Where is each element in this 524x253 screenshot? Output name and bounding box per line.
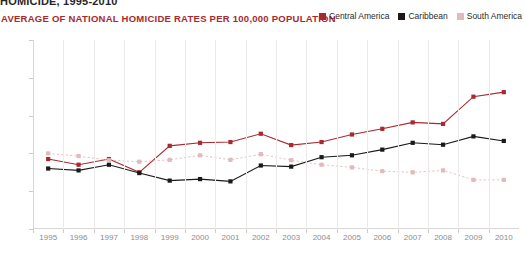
legend-item-caribbean[interactable]: Caribbean (398, 12, 447, 21)
legend-item-central-america[interactable]: Central America (319, 12, 389, 21)
gridline-vertical (94, 40, 95, 229)
data-point-marker[interactable] (411, 170, 415, 174)
square-swatch-icon (398, 13, 405, 20)
x-axis-tick-label: 1995 (31, 233, 65, 242)
gridline-vertical (428, 40, 429, 229)
x-axis-tick-label: 1999 (153, 233, 187, 242)
data-point-marker[interactable] (380, 169, 384, 173)
data-point-marker[interactable] (46, 151, 50, 155)
data-point-marker[interactable] (380, 148, 384, 152)
x-axis-tick-label: 2006 (365, 233, 399, 242)
square-swatch-icon (457, 13, 464, 20)
data-point-marker[interactable] (411, 120, 415, 124)
data-point-marker[interactable] (259, 132, 263, 136)
legend-item-south-america[interactable]: South America (457, 12, 522, 21)
data-point-marker[interactable] (107, 158, 111, 162)
data-point-marker[interactable] (319, 155, 323, 159)
gridline-vertical (306, 40, 307, 229)
plot-area: 0102030405019951996199719981999200020012… (33, 40, 519, 229)
y-axis-tick (29, 78, 33, 79)
data-point-marker[interactable] (107, 163, 111, 167)
supertitle: HOMICIDE, 1995-2010 (0, 0, 118, 7)
data-point-marker[interactable] (380, 127, 384, 131)
data-point-marker[interactable] (411, 141, 415, 145)
data-point-marker[interactable] (289, 158, 293, 162)
data-point-marker[interactable] (319, 140, 323, 144)
square-swatch-icon (319, 13, 326, 20)
x-axis-tick-label: 1996 (62, 233, 96, 242)
data-point-marker[interactable] (441, 168, 445, 172)
data-point-marker[interactable] (76, 163, 80, 167)
gridline-vertical (398, 40, 399, 229)
data-point-marker[interactable] (228, 158, 232, 162)
y-axis-tick (29, 153, 33, 154)
x-axis-tick-label: 2010 (487, 233, 521, 242)
chart-legend: Central AmericaCaribbeanSouth America (319, 12, 522, 21)
gridline-vertical (276, 40, 277, 229)
chart-container: HOMICIDE, 1995-2010 AVERAGE OF NATIONAL … (0, 0, 524, 253)
chart-title: AVERAGE OF NATIONAL HOMICIDE RATES PER 1… (1, 13, 336, 24)
gridline-vertical (246, 40, 247, 229)
data-point-marker[interactable] (76, 168, 80, 172)
data-point-marker[interactable] (137, 160, 141, 164)
gridline-vertical (124, 40, 125, 229)
legend-label: Central America (329, 12, 389, 21)
data-point-marker[interactable] (350, 132, 354, 136)
data-point-marker[interactable] (289, 165, 293, 169)
data-point-marker[interactable] (259, 152, 263, 156)
data-point-marker[interactable] (228, 179, 232, 183)
gridline-vertical (185, 40, 186, 229)
data-point-marker[interactable] (319, 163, 323, 167)
data-point-marker[interactable] (198, 177, 202, 181)
data-point-marker[interactable] (46, 166, 50, 170)
data-point-marker[interactable] (441, 122, 445, 126)
data-point-marker[interactable] (228, 140, 232, 144)
data-point-marker[interactable] (350, 153, 354, 157)
gridline-vertical (155, 40, 156, 229)
data-point-marker[interactable] (198, 141, 202, 145)
data-point-marker[interactable] (168, 158, 172, 162)
data-point-marker[interactable] (471, 178, 475, 182)
x-axis-tick-label: 2001 (213, 233, 247, 242)
gridline-vertical (63, 40, 64, 229)
data-point-marker[interactable] (168, 144, 172, 148)
data-point-marker[interactable] (137, 171, 141, 175)
data-point-marker[interactable] (441, 143, 445, 147)
data-point-marker[interactable] (471, 95, 475, 99)
gridline-vertical (337, 40, 338, 229)
y-axis-tick (29, 40, 33, 41)
data-point-marker[interactable] (502, 90, 506, 94)
y-axis-tick (29, 191, 33, 192)
gridline-vertical (489, 40, 490, 229)
x-axis-tick-label: 2003 (274, 233, 308, 242)
data-point-marker[interactable] (289, 143, 293, 147)
gridline-vertical (458, 40, 459, 229)
x-axis-tick-label: 1997 (92, 233, 126, 242)
x-axis-tick-label: 1998 (122, 233, 156, 242)
x-axis-tick-label: 2009 (456, 233, 490, 242)
data-point-marker[interactable] (168, 179, 172, 183)
x-axis-tick-label: 2008 (426, 233, 460, 242)
data-point-marker[interactable] (46, 157, 50, 161)
data-point-marker[interactable] (471, 134, 475, 138)
data-point-marker[interactable] (259, 163, 263, 167)
data-point-marker[interactable] (502, 139, 506, 143)
legend-label: Caribbean (408, 12, 447, 21)
gridline-vertical (367, 40, 368, 229)
data-point-marker[interactable] (198, 153, 202, 157)
x-axis-tick-label: 2004 (305, 233, 339, 242)
y-axis-tick (29, 116, 33, 117)
data-point-marker[interactable] (350, 165, 354, 169)
x-axis-tick-label: 2005 (335, 233, 369, 242)
x-axis-tick-label: 2007 (396, 233, 430, 242)
data-point-marker[interactable] (502, 178, 506, 182)
x-axis-tick-label: 2000 (183, 233, 217, 242)
x-axis-tick-label: 2002 (244, 233, 278, 242)
gridline-vertical (215, 40, 216, 229)
data-point-marker[interactable] (76, 154, 80, 158)
legend-label: South America (467, 12, 522, 21)
